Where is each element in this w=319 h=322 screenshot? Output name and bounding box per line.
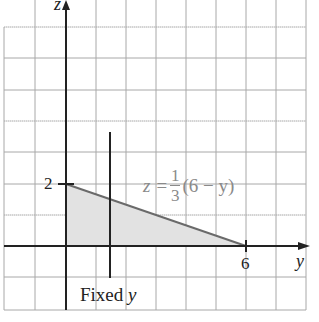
boundary-equation: z = 1 3 (6 − y) (143, 167, 234, 204)
y-axis-arrow-icon (298, 242, 310, 250)
z-axis-label: z (54, 0, 61, 15)
diagram-canvas (0, 0, 319, 322)
fraction-numerator: 1 (170, 167, 181, 186)
equation-rhs: (6 − y) (182, 175, 234, 197)
fixed-label-var: y (128, 284, 136, 305)
fixed-label-prefix: Fixed (80, 284, 123, 305)
y-axis-label: y (296, 251, 304, 272)
z-axis (62, 0, 70, 310)
equation-lhs: z = (143, 175, 168, 197)
fixed-y-label: Fixed y (80, 284, 136, 306)
grid (4, 0, 306, 310)
y-tick-label: 6 (241, 254, 250, 274)
equation-fraction: 1 3 (170, 167, 181, 204)
z-axis-arrow-icon (62, 0, 70, 10)
triple-integral-region-diagram: z y 2 6 z = 1 3 (6 − y) Fixed y (0, 0, 319, 322)
z-tick-label: 2 (44, 174, 53, 194)
fraction-denominator: 3 (171, 186, 180, 204)
